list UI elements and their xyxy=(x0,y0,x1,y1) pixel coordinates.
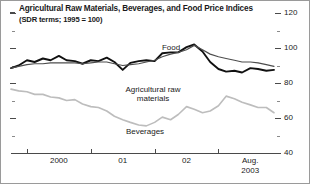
series-label: Agricultural raw xyxy=(113,85,193,94)
series-label: Food xyxy=(131,43,211,52)
x-axis-tick-label-line: 2000 xyxy=(31,156,87,166)
series-label: materials xyxy=(113,94,193,103)
series-label: Beverages xyxy=(105,127,185,136)
y-axis-tick-label: 100 xyxy=(284,43,297,52)
x-axis-tick-label: 01 xyxy=(95,156,151,166)
x-axis-tick-label: Aug.2003 xyxy=(222,156,278,176)
x-axis-tick-label-line: Aug. xyxy=(222,156,278,166)
x-axis-tick-label: 02 xyxy=(159,156,215,166)
chart-figure: Agricultural Raw Materials, Beverages, a… xyxy=(0,0,310,184)
y-axis-tick-label: 60 xyxy=(284,113,293,122)
x-axis-tick-label-line: 02 xyxy=(159,156,215,166)
x-axis-tick-label: 2000 xyxy=(31,156,87,166)
y-axis-tick-label: 120 xyxy=(284,8,297,17)
x-axis-tick-label-line: 2003 xyxy=(222,166,278,176)
y-axis-tick-label: 40 xyxy=(284,148,293,157)
x-axis-tick-label-line: 01 xyxy=(95,156,151,166)
y-axis-tick-label: 80 xyxy=(284,78,293,87)
